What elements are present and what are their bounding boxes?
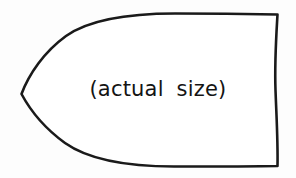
template-outline-path (22, 14, 278, 167)
figure-canvas: (actual size) (0, 0, 296, 178)
template-shape-svg (0, 0, 296, 178)
